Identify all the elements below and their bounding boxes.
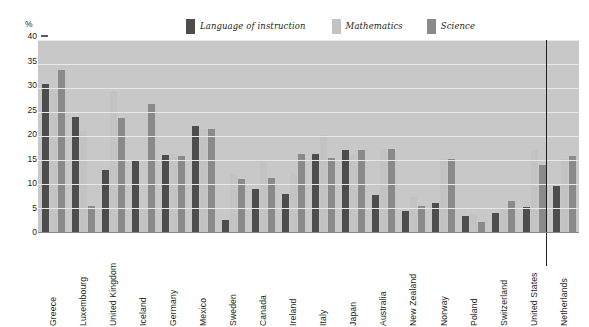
x-axis-label-wrap: Iceland: [128, 238, 158, 326]
bar: [238, 179, 245, 232]
x-axis-label: United States: [530, 238, 539, 326]
bar: [478, 222, 485, 232]
gridline: [38, 160, 579, 161]
x-axis-label-wrap: Switzerland: [489, 238, 519, 326]
bar: [132, 160, 139, 232]
bar: [342, 150, 349, 232]
bar: [268, 178, 275, 232]
bar: [470, 214, 477, 232]
x-axis-label-wrap: Japan: [339, 238, 369, 326]
bar: [260, 161, 267, 232]
legend-item-language-of-instruction: Language of instruction: [186, 19, 306, 34]
gridline: [38, 136, 579, 137]
x-axis-label: Iceland: [139, 238, 148, 326]
bar: [569, 156, 576, 232]
bar: [282, 194, 289, 232]
x-axis-label: United Kingdom: [109, 238, 118, 326]
x-axis-label-cell: Australia: [369, 234, 399, 326]
bar: [561, 159, 568, 232]
bar: [42, 84, 49, 232]
legend-label-language-of-instruction: Language of instruction: [200, 21, 306, 31]
x-axis-label-cell: Mexico: [188, 234, 218, 326]
x-axis-label-cell: New Zealand: [399, 234, 429, 326]
x-axis-label-wrap: Mexico: [188, 238, 218, 326]
x-axis-label: Japan: [349, 238, 358, 326]
bar: [162, 155, 169, 232]
y-axis-tick-label: 40: [28, 31, 37, 41]
x-axis-label-cell: Italy: [309, 234, 339, 326]
x-axis-label: Poland: [470, 238, 479, 326]
bar: [402, 211, 409, 232]
bar: [410, 197, 417, 232]
gridline: [38, 184, 579, 185]
x-axis-label-cell: Norway: [429, 234, 459, 326]
bar-chart: Language of instruction Mathematics Scie…: [0, 0, 589, 327]
x-axis-label: Canada: [259, 238, 268, 326]
bar: [500, 208, 507, 232]
x-axis-label-cell: Poland: [459, 234, 489, 326]
bar: [523, 207, 530, 232]
y-axis-tick-label: 30: [28, 80, 37, 90]
x-axis-label-wrap: Sweden: [218, 238, 248, 326]
bar: [440, 158, 447, 232]
y-axis-tick-label: 0: [32, 227, 37, 237]
x-axis-label: Switzerland: [500, 238, 509, 326]
gridline: [38, 64, 579, 65]
x-axis-line: [38, 232, 579, 233]
bar: [380, 149, 387, 232]
x-axis-label-cell: United Kingdom: [98, 234, 128, 326]
x-axis-label: Luxembourg: [79, 238, 88, 326]
x-axis-label-wrap: United States: [519, 238, 549, 326]
legend-item-science: Science: [427, 19, 475, 34]
x-axis-label-wrap: United Kingdom: [98, 238, 128, 326]
bar: [372, 195, 379, 232]
bar: [192, 126, 199, 232]
x-axis-label: Germany: [169, 238, 178, 326]
bar: [328, 158, 335, 232]
bar: [462, 216, 469, 232]
bar: [448, 159, 455, 232]
legend-item-mathematics: Mathematics: [332, 19, 403, 34]
bar: [88, 206, 95, 232]
x-axis-label-cell: Ireland: [279, 234, 309, 326]
bar: [222, 220, 229, 232]
x-axis-label: New Zealand: [409, 238, 418, 326]
x-axis-label-wrap: Germany: [158, 238, 188, 326]
legend-swatch-language-of-instruction: [186, 19, 195, 34]
bar: [531, 150, 538, 232]
x-axis-label: Greece: [49, 238, 58, 326]
y-axis-tick-label: 10: [28, 178, 37, 188]
y-axis-tick-mark: [41, 35, 48, 37]
bar: [102, 170, 109, 232]
bar: [72, 117, 79, 232]
x-axis-label-wrap: Luxembourg: [68, 238, 98, 326]
x-axis-label: Norway: [440, 238, 449, 326]
x-axis-label-wrap: Norway: [429, 238, 459, 326]
bar: [418, 206, 425, 232]
x-axis-label: Netherlands: [560, 238, 569, 326]
gridline: [38, 40, 579, 41]
y-axis-tick-label: 5: [32, 203, 37, 213]
x-axis-label: Australia: [379, 238, 388, 326]
x-axis-label-wrap: Ireland: [279, 238, 309, 326]
gridline: [38, 88, 579, 89]
x-axis-label-cell: Luxembourg: [68, 234, 98, 326]
chart-legend: Language of instruction Mathematics Scie…: [186, 17, 475, 35]
y-axis-tick-label: 25: [28, 105, 37, 115]
legend-swatch-mathematics: [332, 19, 341, 34]
legend-label-science: Science: [441, 21, 475, 31]
x-axis-label-wrap: Australia: [369, 238, 399, 326]
x-axis-label-wrap: Netherlands: [549, 238, 579, 326]
bar: [312, 154, 319, 232]
bar: [252, 189, 259, 232]
x-axis-label-wrap: Greece: [38, 238, 68, 326]
y-axis-tick-label: 35: [28, 56, 37, 66]
y-axis-tick-label: 15: [28, 154, 37, 164]
bar: [350, 155, 357, 232]
bar: [388, 149, 395, 232]
x-axis-label: Italy: [319, 238, 328, 326]
x-axis-label-cell: Canada: [248, 234, 278, 326]
bar: [148, 104, 155, 232]
bar: [298, 154, 305, 232]
x-axis-label-cell: United States: [519, 234, 549, 326]
